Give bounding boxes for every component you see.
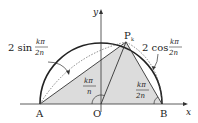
cos-num: kπ xyxy=(170,38,179,46)
sin-coef: 2 sin xyxy=(8,42,33,53)
x-axis-arrow xyxy=(183,102,188,106)
label-P: P xyxy=(124,30,131,41)
sin-den: 2n xyxy=(34,49,44,57)
cos-pointer-head xyxy=(152,66,156,70)
label-A: A xyxy=(35,108,44,119)
sin-pointer xyxy=(48,62,68,72)
label-x: x xyxy=(186,107,191,117)
label-B: B xyxy=(160,108,167,119)
semicircle-diagram: A O B x y P k 2 sin kπ 2n 2 cos kπ 2n kπ… xyxy=(0,0,198,123)
sin-num: kπ xyxy=(36,38,45,46)
cos-den: 2n xyxy=(168,49,178,57)
angle-B-num: kπ xyxy=(137,81,146,89)
cos-coef: 2 cos xyxy=(142,42,168,53)
sin-pointer-head xyxy=(66,70,70,75)
label-y: y xyxy=(92,7,99,17)
label-O: O xyxy=(93,108,101,119)
cos-pointer xyxy=(154,54,158,68)
angle-O-den: n xyxy=(87,88,92,96)
angle-O-num: kπ xyxy=(84,77,93,85)
label-P-sub: k xyxy=(131,36,135,42)
angle-B-den: 2n xyxy=(135,92,145,100)
y-axis-arrow xyxy=(99,9,103,14)
